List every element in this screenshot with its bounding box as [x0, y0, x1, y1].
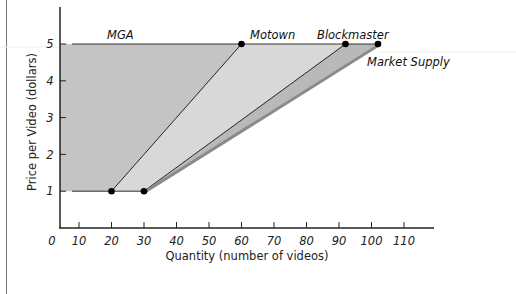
chart-canvas: 5 4 3 2 1 0 10 20 30 40 50 60 70 80 90 1…	[0, 0, 516, 294]
motown-label: Motown	[250, 28, 295, 42]
x-tick-label-100: 100	[361, 234, 383, 248]
x-tick-label-80: 80	[299, 234, 314, 248]
x-tick-label-60: 60	[234, 234, 249, 248]
supply-chart: 5 4 3 2 1 0 10 20 30 40 50 60 70 80 90 1…	[0, 0, 516, 294]
y-axis-title: Price per Video (dollars)	[25, 53, 39, 191]
x-tick-label-30: 30	[137, 234, 152, 248]
y-tick-label-2: 2	[46, 148, 53, 162]
x-tick-label-90: 90	[332, 234, 347, 248]
x-ticks	[79, 222, 404, 228]
y-tick-label-3: 3	[46, 111, 53, 125]
x-tick-label-20: 20	[104, 234, 119, 248]
blockmaster-label: Blockmaster	[317, 28, 390, 42]
mga-label: MGA	[107, 28, 134, 42]
x-tick-label-70: 70	[267, 234, 282, 248]
x-tick-label-110: 110	[393, 234, 415, 248]
y-tick-label-4: 4	[46, 74, 53, 88]
x-tick-label-0: 0	[48, 234, 55, 248]
x-tick-label-40: 40	[169, 234, 184, 248]
x-axis-title: Quantity (number of videos)	[165, 249, 328, 263]
y-tick-label-5: 5	[46, 37, 53, 51]
point-motown-60-5	[238, 41, 245, 48]
x-tick-label-50: 50	[202, 234, 217, 248]
point-20-1	[108, 188, 115, 195]
y-tick-label-1: 1	[46, 184, 53, 198]
x-tick-label-10: 10	[72, 234, 87, 248]
point-30-1	[141, 188, 148, 195]
market-supply-label: Market Supply	[367, 55, 450, 69]
